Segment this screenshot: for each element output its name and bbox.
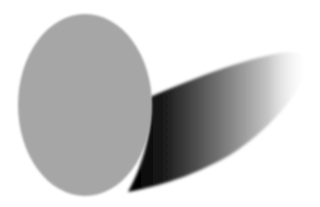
disk-with-shadow-illustration: Gray elliptical disk casting a gradient … [0, 0, 320, 207]
gray-disk [18, 14, 152, 196]
cast-shadow [128, 52, 308, 192]
illustration-canvas [0, 0, 320, 207]
